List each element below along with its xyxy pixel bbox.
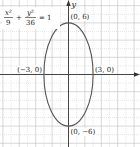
eq-y-num: y²: [26, 9, 34, 17]
eq-x-num: x²: [5, 9, 12, 17]
ellipse-chart: y x² 9 + y² 36 = 1 (0, 6)(−3, 0)(3, 0)(0…: [0, 0, 140, 147]
x-axis-arrow-icon: [134, 72, 140, 76]
equation-label: x² 9 + y² 36 = 1: [2, 7, 60, 29]
label-right-vertex: (3, 0): [95, 66, 114, 74]
eq-rhs: = 1: [39, 14, 52, 22]
eq-plus: +: [16, 14, 22, 22]
label-bottom-vertex: (0, −6): [71, 128, 96, 136]
label-top-vertex: (0, 6): [71, 13, 90, 21]
eq-y-den: 36: [26, 19, 35, 27]
y-axis-label: y: [71, 0, 77, 9]
y-axis-arrow-icon: [66, 0, 70, 6]
eq-x-den: 9: [6, 19, 10, 27]
label-left-vertex: (−3, 0): [17, 66, 42, 74]
